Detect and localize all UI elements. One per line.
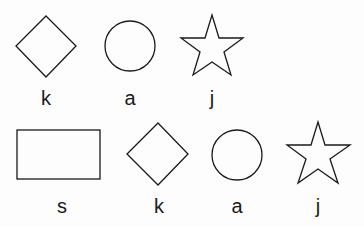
shape-label: a <box>231 196 242 216</box>
star-shape <box>181 15 243 75</box>
diamond-shape <box>127 123 188 185</box>
shape-label: j <box>316 196 320 216</box>
shape-label: a <box>124 88 135 108</box>
rectangle-shape <box>17 130 100 179</box>
circle-shape <box>105 21 155 71</box>
shape-label: j <box>210 88 214 108</box>
shape-label-diagram: k a j s k a j <box>0 0 364 227</box>
shape-label: k <box>154 196 164 216</box>
shape-label: k <box>41 88 51 108</box>
diamond-shape <box>16 16 76 77</box>
circle-shape <box>212 130 262 180</box>
star-shape <box>287 122 350 183</box>
shape-label: s <box>57 196 67 216</box>
